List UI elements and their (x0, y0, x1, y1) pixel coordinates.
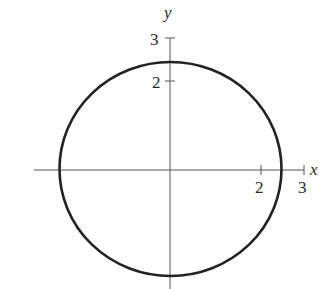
y-axis-label: y (162, 3, 172, 22)
x-axis-label: x (309, 160, 318, 179)
y-tick-label-3: 3 (150, 30, 159, 49)
x-tick-label-2: 2 (255, 178, 264, 197)
circle-graph: y x 3 2 2 3 (0, 0, 331, 289)
y-tick-label-2: 2 (152, 73, 161, 92)
x-tick-label-3: 3 (298, 178, 307, 197)
